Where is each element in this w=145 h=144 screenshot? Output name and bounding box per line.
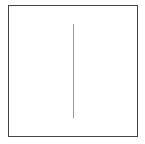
vertical-line bbox=[73, 24, 74, 118]
